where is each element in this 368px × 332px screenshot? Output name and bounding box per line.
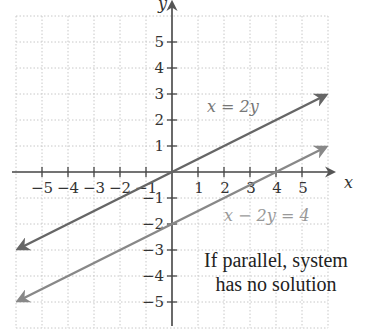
line-1-label: x = 2y <box>207 97 260 116</box>
x-tick-label: 5 <box>298 179 308 197</box>
y-tick-label: −4 <box>142 267 164 285</box>
line-2-label: x − 2y = 4 <box>224 206 310 225</box>
y-tick-label: 2 <box>154 111 164 129</box>
x-tick-label: 1 <box>194 179 204 197</box>
x-tick-label: 2 <box>220 179 230 197</box>
annotation-line-1: If parallel, system <box>204 249 348 272</box>
y-axis-label: y <box>157 0 168 13</box>
y-tick-label: 3 <box>154 85 164 103</box>
x-tick-labels: −5 −4 −3 −2 −1 1 2 3 4 5 <box>31 179 308 197</box>
y-tick-label: −1 <box>142 189 164 207</box>
y-tick-label: −5 <box>142 293 164 311</box>
y-tick-label: −3 <box>142 241 164 259</box>
y-tick-label: 1 <box>154 137 164 155</box>
y-tick-label: 5 <box>154 33 164 51</box>
coordinate-plane: −5 −4 −3 −2 −1 1 2 3 4 5 5 4 3 2 1 −1 −2… <box>0 0 368 332</box>
x-tick-label: 4 <box>272 179 282 197</box>
x-axis-label: x <box>344 173 353 192</box>
y-tick-label: 4 <box>154 59 164 77</box>
x-tick-label: −5 <box>31 179 53 197</box>
x-tick-label: −4 <box>57 179 79 197</box>
annotation-line-2: has no solution <box>215 273 336 295</box>
x-tick-label: −3 <box>83 179 105 197</box>
